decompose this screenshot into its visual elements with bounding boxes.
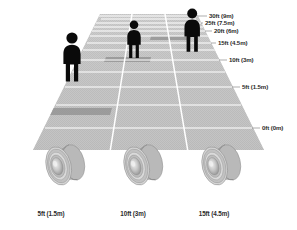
distance-marker-30ft: 30ft (9m) (197, 12, 234, 19)
distance-marker-15ft: 15ft (4.5m) (211, 39, 247, 46)
distance-label-25ft: 25ft (7.5m) (205, 19, 234, 26)
perspective-floor (33, 14, 264, 150)
distance-marker-0ft: 0ft (0m) (252, 124, 283, 131)
distance-label-5ft: 5ft (1.5m) (242, 83, 268, 90)
lens-label-right: 15ft (4.5m) (199, 210, 229, 218)
distance-label-10ft: 10ft (3m) (229, 56, 254, 63)
distance-label-15ft: 15ft (4.5m) (218, 39, 247, 46)
diagram-canvas: 30ft (9m) 25ft (7.5m) 20ft (6m) 15ft (4.… (0, 0, 297, 230)
distance-label-20ft: 20ft (6m) (214, 27, 239, 34)
distance-label-0ft: 0ft (0m) (262, 124, 283, 131)
perspective-scene: 30ft (9m) 25ft (7.5m) 20ft (6m) 15ft (4.… (0, 0, 297, 230)
distance-marker-25ft: 25ft (7.5m) (201, 19, 234, 26)
distance-marker-20ft: 20ft (6m) (205, 27, 239, 34)
distance-marker-10ft: 10ft (3m) (219, 56, 254, 63)
lens-label-left: 5ft (1.5m) (38, 210, 65, 218)
distance-marker-5ft: 5ft (1.5m) (232, 83, 268, 90)
distance-label-30ft: 30ft (9m) (209, 12, 234, 19)
lens-label-center: 10ft (3m) (120, 210, 145, 218)
